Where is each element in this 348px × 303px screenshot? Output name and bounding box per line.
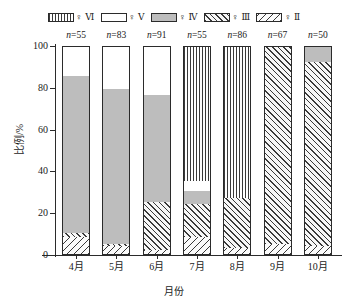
chart-plot-wrapper: 020406080100 比例/% 月份 n=55n=83n=91n=55n=8… (0, 0, 348, 303)
x-axis-tick (197, 255, 198, 259)
stacked-bar[interactable] (264, 46, 292, 255)
bar-group: n=55 (183, 46, 211, 255)
bar-segment-v (63, 46, 89, 76)
y-axis-tick (50, 46, 55, 47)
bar-segment-iii (265, 46, 291, 244)
bar-segment-ii (305, 246, 331, 254)
bar-segment-vi (224, 46, 250, 198)
bar-group: n=50 (304, 46, 332, 255)
bar-segment-iv (305, 46, 331, 62)
bar-segment-v (184, 181, 210, 191)
x-axis-line (42, 255, 342, 256)
bar-group: n=83 (102, 46, 130, 255)
plot-area: n=55n=83n=91n=55n=86n=67n=50 (56, 46, 338, 255)
stacked-bar[interactable] (102, 46, 130, 255)
x-axis-tick (76, 255, 77, 259)
y-axis-tick (50, 171, 55, 172)
bar-segment-iv (144, 95, 170, 202)
bar-segment-iii (305, 62, 331, 246)
bar-segment-vi (184, 46, 210, 181)
y-axis-tick (50, 255, 55, 256)
bar-group: n=86 (223, 46, 251, 255)
bar-segment-iv (184, 191, 210, 204)
y-axis-tick-label: 100 (14, 41, 48, 51)
bar-segment-iii (144, 202, 170, 250)
y-axis-tick (50, 130, 55, 131)
stacked-bar[interactable] (304, 46, 332, 255)
y-axis-tick-label: 0 (14, 250, 48, 260)
x-axis-tick (278, 255, 279, 259)
y-axis-label: 比例/% (11, 110, 26, 170)
bar-segment-iv (63, 76, 89, 233)
bar-segment-ii (184, 237, 210, 254)
x-axis-tick-label: 10月 (288, 261, 348, 273)
bar-segment-ii (63, 237, 89, 254)
x-axis-label: 月份 (0, 283, 348, 298)
bar-segment-iii (224, 198, 250, 248)
bar-segment-iii (184, 204, 210, 237)
x-axis-tick (157, 255, 158, 259)
bar-segment-ii (224, 248, 250, 254)
y-axis-tick (50, 88, 55, 89)
bar-group: n=67 (264, 46, 292, 255)
bar-segment-iii (103, 244, 129, 246)
bar-segment-v (103, 46, 129, 89)
stacked-bar[interactable] (62, 46, 90, 255)
x-axis-tick (318, 255, 319, 259)
stacked-bar[interactable] (183, 46, 211, 255)
sample-size-label: n=50 (288, 30, 348, 40)
stacked-bar[interactable] (143, 46, 171, 255)
y-axis-tick-label: 20 (14, 208, 48, 218)
bar-group: n=55 (62, 46, 90, 255)
bar-segment-ii (265, 244, 291, 254)
bar-segment-ii (103, 246, 129, 254)
bar-segment-ii (144, 250, 170, 254)
stacked-bar[interactable] (223, 46, 251, 255)
bar-segment-iii (63, 233, 89, 237)
x-axis-tick (116, 255, 117, 259)
y-axis-tick-label: 80 (14, 83, 48, 93)
bar-segment-v (144, 46, 170, 95)
y-axis-tick (50, 213, 55, 214)
bar-group: n=91 (143, 46, 171, 255)
bar-segment-iv (103, 89, 129, 244)
x-axis-tick (237, 255, 238, 259)
